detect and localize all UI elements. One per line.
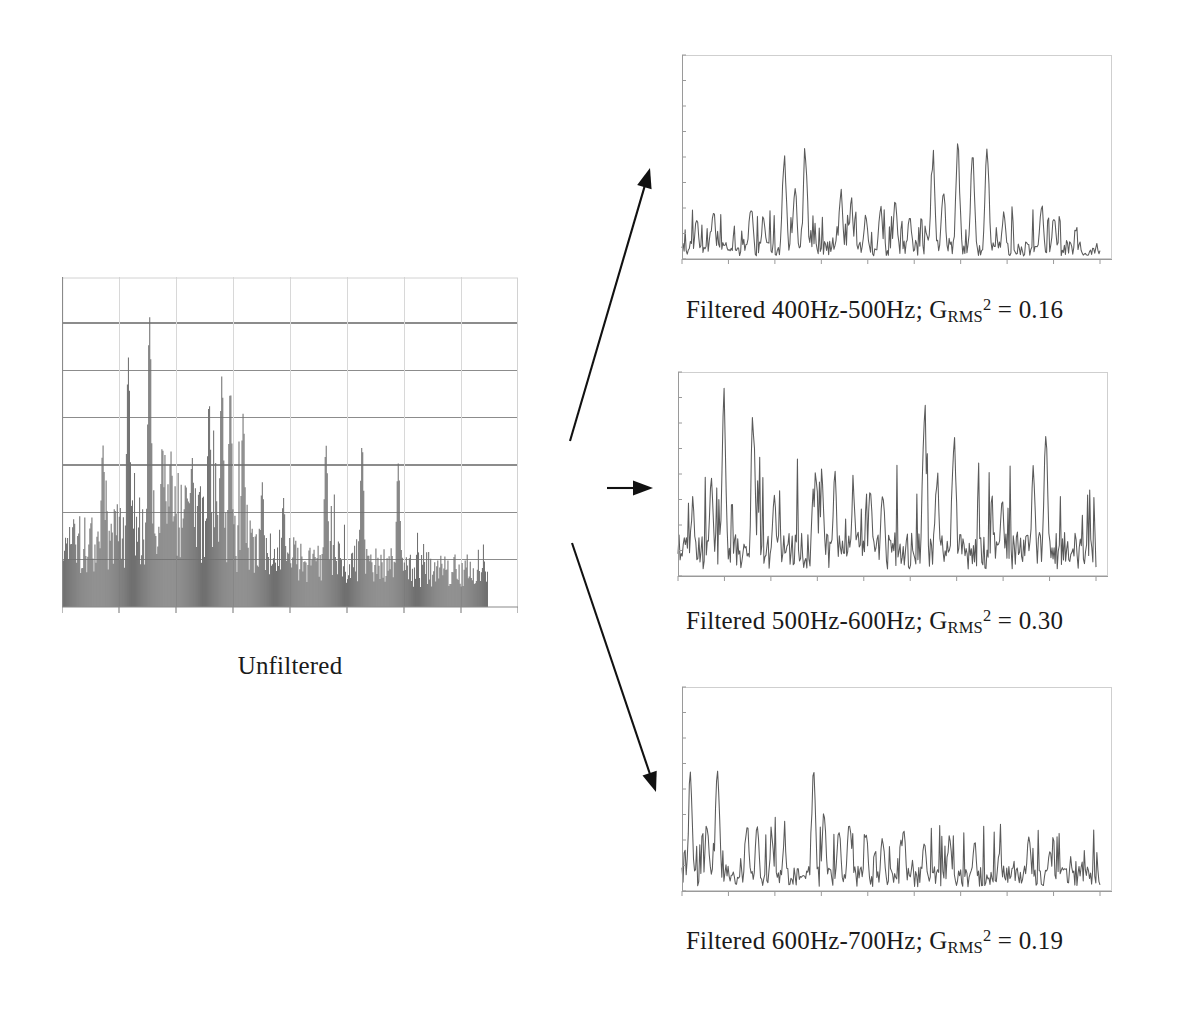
filtered-plot-canvas-400-500: [672, 53, 1112, 271]
arrow-to-band3: [572, 543, 657, 792]
metric-subscript: RMS: [948, 618, 983, 637]
caption-prefix: Filtered: [686, 296, 772, 323]
unfiltered-caption: Unfiltered: [62, 652, 518, 680]
filtered-caption-400-500: Filtered 400Hz-500Hz; GRMS2 = 0.16: [686, 296, 1063, 324]
caption-prefix: Filtered: [686, 607, 772, 634]
arrow-to-band1: [570, 168, 652, 441]
caption-prefix: Filtered: [686, 927, 772, 954]
metric-superscript: 2: [983, 295, 991, 314]
caption-band: 400Hz-500Hz: [772, 296, 916, 323]
caption-band: 600Hz-700Hz: [772, 927, 916, 954]
metric-symbol: G: [929, 607, 947, 634]
unfiltered-plot-canvas: [62, 277, 518, 622]
caption-band: 500Hz-600Hz: [772, 607, 916, 634]
filtered-signal-trace-600-700: [682, 771, 1100, 887]
metric-equals: =: [991, 296, 1018, 323]
metric-value: 0.16: [1019, 296, 1064, 323]
caption-separator: ;: [916, 607, 930, 634]
metric-equals: =: [991, 607, 1018, 634]
metric-superscript: 2: [983, 606, 991, 625]
unfiltered-signal-trace: [63, 317, 488, 607]
metric-subscript: RMS: [948, 307, 983, 326]
filtered-caption-500-600: Filtered 500Hz-600Hz; GRMS2 = 0.30: [686, 607, 1063, 635]
filtered-signal-trace-500-600: [678, 388, 1096, 569]
metric-subscript: RMS: [948, 938, 983, 957]
filtered-plot-canvas-500-600: [668, 370, 1108, 588]
arrow-group: [570, 168, 657, 792]
metric-value: 0.30: [1019, 607, 1064, 634]
arrow-to-band2: [607, 481, 653, 496]
filtered-plot-panel-400-500: [672, 53, 1112, 271]
metric-equals: =: [991, 927, 1018, 954]
metric-symbol: G: [929, 296, 947, 323]
filtered-plot-panel-500-600: [668, 370, 1108, 588]
filtered-signal-trace-400-500: [682, 144, 1100, 256]
figure-root: Unfiltered Filtered 400Hz-500Hz; GRMS2 =…: [0, 0, 1179, 1011]
metric-symbol: G: [929, 927, 947, 954]
filtered-plot-canvas-600-700: [672, 685, 1112, 903]
metric-superscript: 2: [983, 926, 991, 945]
caption-separator: ;: [916, 296, 930, 323]
filtered-caption-600-700: Filtered 600Hz-700Hz; GRMS2 = 0.19: [686, 927, 1063, 955]
metric-value: 0.19: [1019, 927, 1064, 954]
filtered-axes-500-600: [678, 372, 1108, 581]
caption-separator: ;: [916, 927, 930, 954]
filtered-plot-panel-600-700: [672, 685, 1112, 903]
unfiltered-plot-panel: [62, 277, 518, 622]
